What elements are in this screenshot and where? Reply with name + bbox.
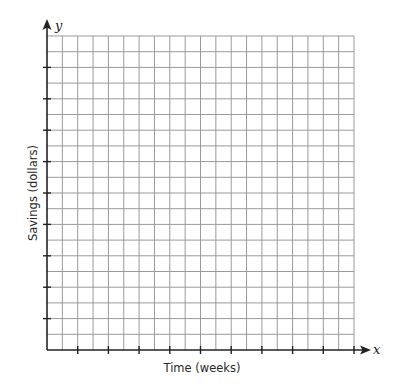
y-axis-label: Savings (dollars)	[26, 145, 40, 241]
x-axis-variable: x	[373, 342, 381, 357]
x-axis-label: Time (weeks)	[163, 361, 241, 375]
axis-ticks	[43, 67, 354, 354]
coordinate-grid-chart: x y Time (weeks) Savings (dollars)	[0, 0, 399, 390]
y-axis-variable: y	[54, 18, 63, 33]
grid-lines	[47, 36, 354, 350]
